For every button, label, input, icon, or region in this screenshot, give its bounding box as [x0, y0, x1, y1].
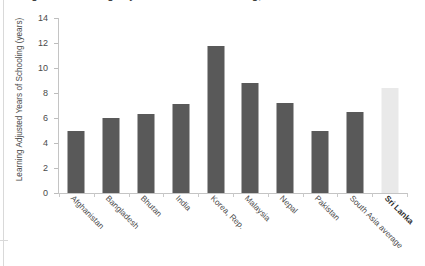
x-axis-tick-labels: AfghanistanBangladeshBhutanIndiaKorea, R…: [59, 197, 407, 265]
x-tick-mark: [407, 193, 408, 197]
x-tick-label: India: [174, 194, 193, 213]
x-tick-mark: [233, 193, 234, 197]
x-tick-mark: [303, 193, 304, 197]
x-tick-mark: [372, 193, 373, 197]
bar[interactable]: [277, 103, 294, 193]
y-tick-mark: [54, 193, 58, 194]
y-tick-label: 12: [38, 38, 48, 48]
x-tick-mark: [337, 193, 338, 197]
bar[interactable]: [103, 118, 120, 193]
y-tick-label: 0: [43, 188, 48, 198]
bar[interactable]: [68, 131, 85, 194]
x-tick-label: Bangladesh: [104, 194, 141, 231]
x-tick-mark: [94, 193, 95, 197]
bar[interactable]: [311, 131, 328, 194]
bar[interactable]: [381, 88, 398, 193]
x-tick-label: Nepal: [278, 194, 300, 216]
chart-title: Figure 3: Learning Adjusted Years of Sch…: [22, 0, 342, 3]
y-tick-label: 14: [38, 13, 48, 23]
y-tick-label: 2: [43, 163, 48, 173]
chart-page: Figure 3: Learning Adjusted Years of Sch…: [0, 0, 425, 266]
x-tick-label: Korea, Rep.: [208, 194, 245, 231]
y-tick-mark: [54, 118, 58, 119]
page-border-bottom: [0, 240, 8, 241]
x-tick-label: Malaysia: [243, 194, 272, 223]
bar[interactable]: [207, 46, 224, 194]
x-tick-mark: [198, 193, 199, 197]
chart-title-text: Figure 3: Learning Adjusted Years of Sch…: [22, 0, 342, 2]
bar-slot: [163, 18, 198, 193]
bar[interactable]: [137, 114, 154, 193]
page-border-left: [3, 0, 4, 266]
x-tick-label: Sri Lanka: [382, 194, 414, 226]
y-tick-label: 10: [38, 63, 48, 73]
x-tick-mark: [163, 193, 164, 197]
y-tick-mark: [54, 143, 58, 144]
bar[interactable]: [242, 83, 259, 193]
bar-slot: [59, 18, 94, 193]
x-tick-mark: [129, 193, 130, 197]
bar-slot: [198, 18, 233, 193]
y-tick-mark: [54, 18, 58, 19]
y-tick-label: 8: [43, 88, 48, 98]
y-tick-mark: [54, 168, 58, 169]
y-tick-mark: [54, 43, 58, 44]
plot-area: [59, 18, 407, 193]
x-tick-mark: [59, 193, 60, 197]
x-tick-label: Pakistan: [313, 194, 342, 223]
bar-slot: [337, 18, 372, 193]
x-tick-mark: [268, 193, 269, 197]
y-tick-mark: [54, 68, 58, 69]
x-tick-label: Bhutan: [139, 194, 164, 219]
bar-slot: [129, 18, 164, 193]
bar-slot: [94, 18, 129, 193]
bar-slot: [233, 18, 268, 193]
y-tick-label: 6: [43, 113, 48, 123]
bar-slot: [268, 18, 303, 193]
y-tick-label: 4: [43, 138, 48, 148]
bar[interactable]: [346, 112, 363, 193]
y-tick-mark: [54, 93, 58, 94]
bar-slot: [303, 18, 338, 193]
bar[interactable]: [172, 104, 189, 193]
bar-slot: [372, 18, 407, 193]
x-tick-label: Afghanistan: [69, 194, 106, 231]
y-axis-tick-labels: 02468101214: [22, 12, 48, 198]
